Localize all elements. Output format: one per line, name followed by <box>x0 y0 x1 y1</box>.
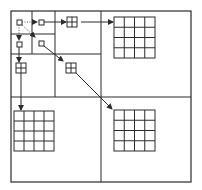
grid-2x2-down <box>16 63 26 73</box>
quadtree-diagram <box>0 0 202 190</box>
grid-1x1-diag <box>39 41 44 46</box>
grid-4x4-right <box>114 17 155 58</box>
grid-1x1-down <box>17 42 22 47</box>
grid-4x4-diag <box>114 110 155 151</box>
grid-1x1-origin <box>17 20 22 25</box>
arrow-diag-2-to-4 <box>76 73 112 109</box>
grid-2x2-diag <box>66 63 76 73</box>
grid-2x2-right <box>67 17 77 27</box>
grid-4x4-down <box>14 111 54 151</box>
arrow-origin-to-diag <box>22 25 35 37</box>
grid-1x1-right <box>39 20 44 25</box>
quadrant-dividers <box>11 11 191 182</box>
pixel-grids <box>14 17 155 151</box>
